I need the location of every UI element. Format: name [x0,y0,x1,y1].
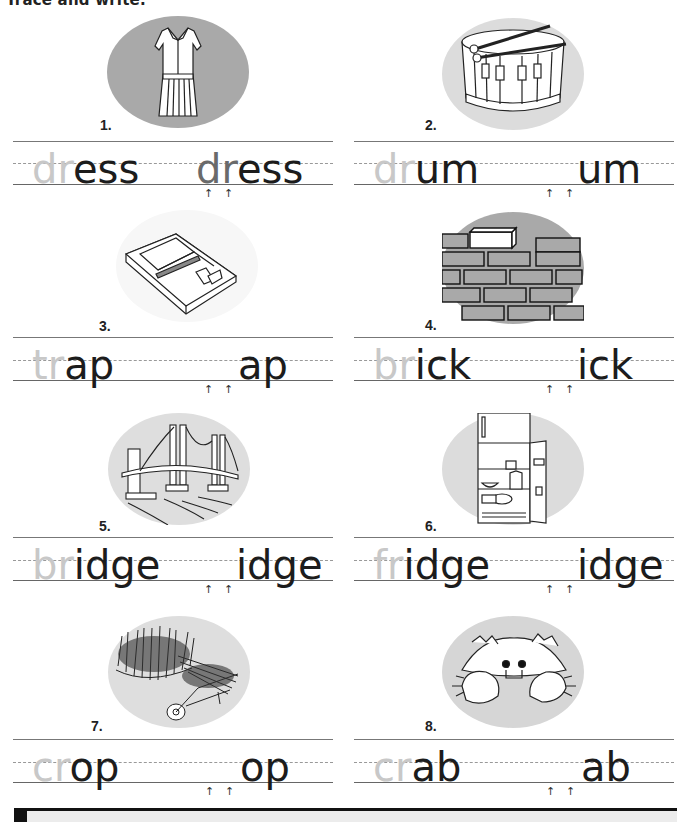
arrow-up-icon: ↑ [224,384,233,395]
arrow-up-icon: ↑ [545,584,554,595]
drum-icon [442,18,584,130]
arrow-up-icon: ↑ [225,786,234,797]
writing-line-top [13,337,333,338]
item-number: 8. [425,718,437,734]
writing-line-top [354,537,674,538]
picture-ellipse [107,16,249,128]
word-ending: ick [577,342,633,388]
word-ending: ab [411,744,461,790]
trace-word: trap [32,345,114,385]
answer-word[interactable]: idge [236,545,323,585]
arrow-up-icon: ↑ [205,786,214,797]
brick-wall-icon [442,212,584,324]
word-ending: op [70,744,120,790]
word-ending: op [240,744,290,790]
exercise-item: 6. fridge idge ↑ ↑ [341,400,682,600]
answer-word[interactable]: dress [196,149,303,189]
exercise-item: 4. brick ick ↑ ↑ [341,200,682,400]
dress-icon [107,16,249,128]
trace-word: fridge [373,545,490,585]
item-number: 2. [425,117,437,133]
answer-word[interactable]: ab [581,747,631,787]
word-ending: ab [581,744,631,790]
answer-word[interactable]: ap [238,345,288,385]
traceable-prefix[interactable]: fr [373,542,404,588]
exercise-item: 1. dress dress ↑ ↑ [0,0,341,200]
item-number: 3. [99,318,111,334]
item-number: 6. [425,518,437,534]
trace-word: brick [373,345,471,385]
arrow-up-icon: ↑ [224,584,233,595]
word-ending: ap [238,342,288,388]
crop-wheelbarrow-icon [108,616,250,728]
trace-word: crop [32,747,119,787]
answer-word[interactable]: idge [577,545,664,585]
picture-ellipse [442,18,584,130]
exercise-item: 5. bridge idge ↑ ↑ [0,400,341,600]
writing-line-top [13,739,333,740]
word-ending: idge [74,542,161,588]
picture-ellipse [108,616,250,728]
traceable-prefix[interactable]: cr [373,744,411,790]
item-number: 4. [425,317,437,333]
answer-word[interactable]: um [577,149,641,189]
crab-icon [442,616,584,728]
item-number: 5. [99,518,111,534]
trace-word: dress [32,149,139,189]
bridge-icon [108,413,250,525]
word-ending: idge [404,542,491,588]
written-prefix[interactable]: dr [196,146,237,192]
arrow-up-icon: ↑ [204,584,213,595]
footer-panel [14,811,677,822]
arrow-up-icon: ↑ [224,188,233,199]
arrow-up-icon: ↑ [565,384,574,395]
traceable-prefix[interactable]: dr [373,146,415,192]
mousetrap-icon [116,210,258,322]
picture-ellipse [442,413,584,525]
picture-ellipse [108,413,250,525]
picture-ellipse [442,616,584,728]
arrow-up-icon: ↑ [204,188,213,199]
item-number: 1. [100,117,112,133]
arrow-up-icon: ↑ [545,384,554,395]
word-ending: idge [577,542,664,588]
word-ending: um [577,146,641,192]
picture-ellipse [442,212,584,324]
arrow-up-icon: ↑ [565,584,574,595]
answer-word[interactable]: ick [577,345,633,385]
refrigerator-icon [442,413,584,525]
word-ending: um [415,146,479,192]
item-number: 7. [91,718,103,734]
trace-word: drum [373,149,479,189]
trace-word: crab [373,747,461,787]
exercise-item: 2. drum um ↑ ↑ [341,0,682,200]
traceable-prefix[interactable]: tr [32,342,64,388]
traceable-prefix[interactable]: cr [32,744,70,790]
traceable-prefix[interactable]: dr [32,146,73,192]
word-ending: ess [73,146,139,192]
writing-line-top [13,537,333,538]
writing-line-top [354,337,674,338]
arrow-up-icon: ↑ [204,384,213,395]
word-ending: ap [64,342,114,388]
trace-word: bridge [32,545,160,585]
word-ending: ess [237,146,303,192]
writing-line-top [354,739,674,740]
picture-ellipse [116,210,258,322]
exercise-item: 3. trap ap ↑ ↑ [0,200,341,400]
footer-marker [14,811,27,822]
exercise-item: 7. crop op ↑ ↑ [0,600,341,800]
traceable-prefix[interactable]: br [32,542,74,588]
word-ending: idge [236,542,323,588]
writing-line-top [13,141,333,142]
exercise-item: 8. crab ab ↑ ↑ [341,600,682,800]
writing-line-top [354,141,674,142]
arrow-up-icon: ↑ [545,188,554,199]
arrow-up-icon: ↑ [546,786,555,797]
answer-word[interactable]: op [240,747,290,787]
word-ending: ick [415,342,471,388]
traceable-prefix[interactable]: br [373,342,415,388]
arrow-up-icon: ↑ [566,786,575,797]
arrow-up-icon: ↑ [565,188,574,199]
